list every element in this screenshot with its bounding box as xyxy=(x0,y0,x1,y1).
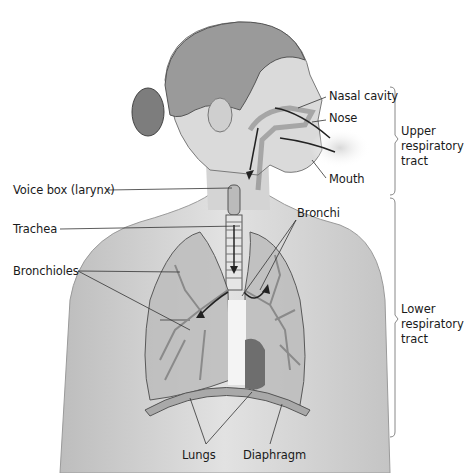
upper-line-3: tract xyxy=(401,154,464,169)
mediastinum xyxy=(228,300,246,385)
label-lungs: Lungs xyxy=(182,448,216,462)
lower-line-1: Lower xyxy=(401,302,464,317)
label-trachea: Trachea xyxy=(13,222,57,236)
group-lower-respiratory-tract: Lower respiratory tract xyxy=(401,302,464,347)
larynx xyxy=(228,185,240,215)
ponytail xyxy=(132,88,164,136)
label-bronchi: Bronchi xyxy=(297,206,340,220)
illustration xyxy=(0,0,468,473)
ear xyxy=(208,98,232,132)
respiratory-diagram: Nasal cavity Nose Mouth Voice box (laryn… xyxy=(0,0,468,473)
breath-cloud xyxy=(310,128,370,168)
braces xyxy=(390,87,398,437)
heart xyxy=(245,339,265,390)
lower-line-2: respiratory xyxy=(401,317,464,332)
label-nose: Nose xyxy=(329,111,357,125)
label-bronchioles: Bronchioles xyxy=(13,264,79,278)
label-mouth: Mouth xyxy=(329,172,365,186)
upper-line-1: Upper xyxy=(401,124,464,139)
label-diaphragm: Diaphragm xyxy=(243,448,306,462)
upper-line-2: respiratory xyxy=(401,139,464,154)
label-voice-box: Voice box (larynx) xyxy=(13,183,115,197)
group-upper-respiratory-tract: Upper respiratory tract xyxy=(401,124,464,169)
label-nasal-cavity: Nasal cavity xyxy=(329,89,398,103)
lower-line-3: tract xyxy=(401,332,464,347)
